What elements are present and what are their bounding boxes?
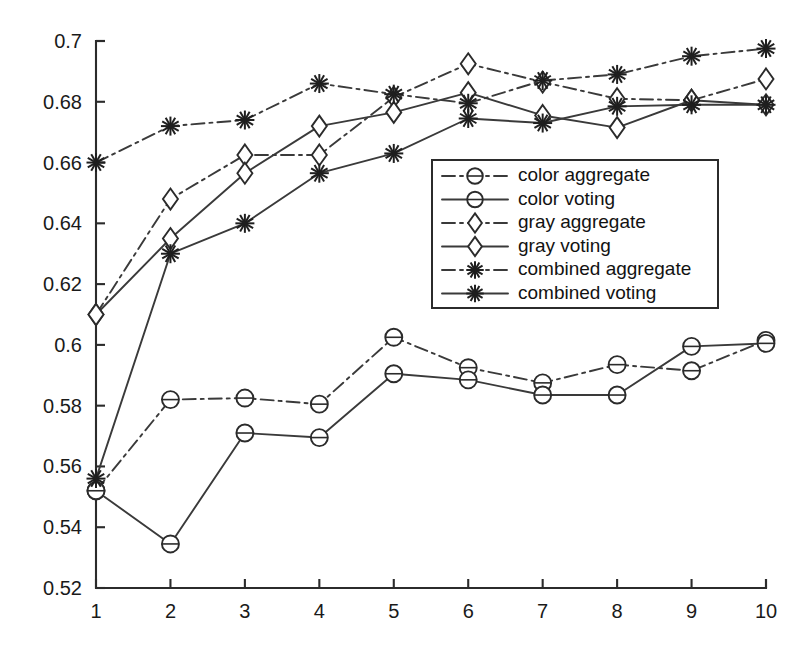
x-tick-label: 7 (537, 600, 548, 622)
line-chart: 0.520.540.560.580.60.620.640.660.680.7 1… (0, 0, 796, 645)
x-tick-label: 2 (165, 600, 176, 622)
y-tick-label: 0.56 (43, 455, 82, 477)
y-tick-label: 0.52 (43, 577, 82, 599)
y-tick-label: 0.64 (43, 212, 82, 234)
y-tick-label: 0.58 (43, 395, 82, 417)
legend-label: color voting (518, 188, 615, 209)
chart-legend: color aggregatecolor votinggray aggregat… (432, 160, 718, 308)
legend-label: gray voting (518, 235, 611, 256)
legend-label: combined voting (518, 282, 656, 303)
y-tick-label: 0.54 (43, 516, 82, 538)
x-tick-label: 9 (686, 600, 697, 622)
legend-label: color aggregate (518, 164, 650, 185)
y-tick-label: 0.7 (54, 30, 82, 52)
x-tick-label: 10 (755, 600, 777, 622)
y-tick-label: 0.68 (43, 91, 82, 113)
y-tick-label: 0.66 (43, 152, 82, 174)
x-tick-label: 3 (239, 600, 250, 622)
legend-label: gray aggregate (518, 211, 646, 232)
y-tick-label: 0.6 (54, 334, 82, 356)
legend-label: combined aggregate (518, 258, 691, 279)
chart-canvas: 0.520.540.560.580.60.620.640.660.680.7 1… (0, 0, 796, 645)
x-tick-label: 8 (612, 600, 623, 622)
y-tick-label: 0.62 (43, 273, 82, 295)
x-tick-label: 6 (463, 600, 474, 622)
x-tick-label: 4 (314, 600, 325, 622)
x-tick-label: 1 (90, 600, 101, 622)
x-tick-label: 5 (388, 600, 399, 622)
